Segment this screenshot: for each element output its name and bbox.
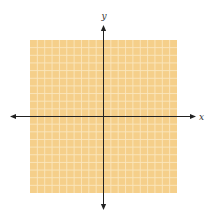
y-axis-arrow-down-icon [101,204,106,210]
x-axis-arrow-left-icon [10,114,16,119]
x-axis-arrow-right-icon [190,114,196,119]
coordinate-plane: x y [0,0,207,221]
y-axis-label: y [101,11,108,21]
y-axis-arrow-up-icon [101,25,106,31]
x-axis-label: x [199,112,204,122]
